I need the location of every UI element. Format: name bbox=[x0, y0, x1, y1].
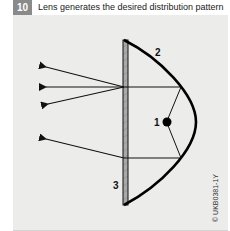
lens-shape bbox=[123, 40, 128, 205]
internal-ray-paths bbox=[124, 87, 181, 158]
headlamp-lens-diagram: 1 2 3 bbox=[0, 0, 230, 231]
ray-arrow-icon bbox=[46, 67, 124, 87]
label-lens: 3 bbox=[113, 180, 119, 191]
ray-arrow-icon bbox=[46, 139, 124, 158]
label-bulb: 1 bbox=[154, 117, 160, 128]
image-credit: © UKB0381-1Y bbox=[212, 174, 219, 222]
label-reflector: 2 bbox=[155, 47, 161, 58]
outgoing-light-rays bbox=[46, 67, 124, 158]
reflector-curve bbox=[124, 40, 196, 205]
bulb-dot-icon bbox=[163, 118, 172, 127]
ray-arrow-icon bbox=[48, 87, 124, 104]
